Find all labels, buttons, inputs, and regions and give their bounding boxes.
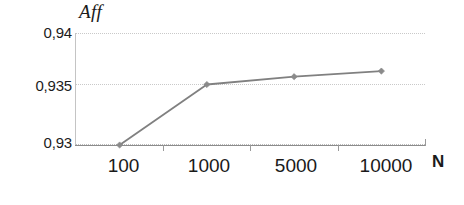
data-point-marker-10000 [378, 68, 384, 74]
data-series-line [0, 0, 464, 205]
series-polyline [120, 71, 382, 145]
data-point-marker-5000 [291, 74, 297, 80]
chart-figure: 0,94 0,935 0,93 100 1000 5000 10000 Aff … [0, 0, 464, 205]
